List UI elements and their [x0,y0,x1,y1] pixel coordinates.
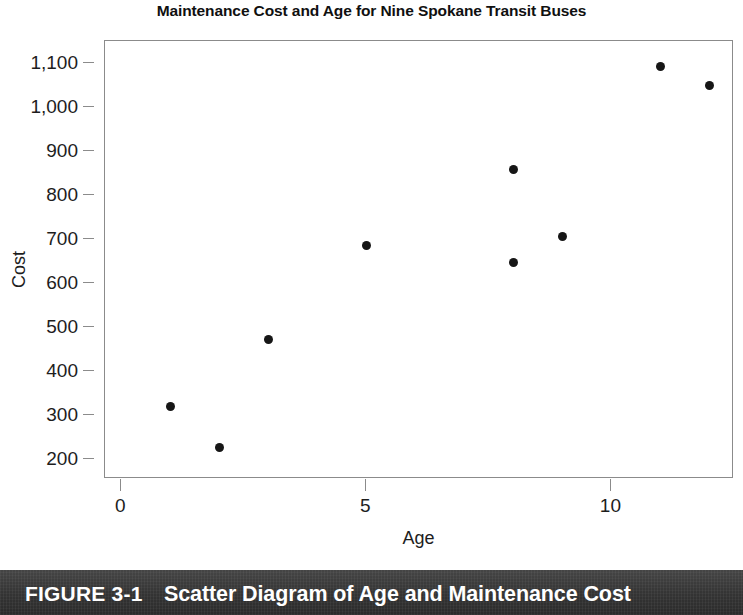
x-axis: 0510 [0,0,743,615]
figure-caption-text: Scatter Diagram of Age and Maintenance C… [164,582,631,607]
x-tick-mark [365,479,366,491]
x-tick-label: 10 [600,495,621,517]
figure-number: FIGURE 3-1 [25,582,143,606]
figure-caption-bar: FIGURE 3-1 Scatter Diagram of Age and Ma… [0,570,743,615]
x-tick-label: 5 [360,495,371,517]
x-tick-mark [610,479,611,491]
x-tick-mark [120,479,121,491]
x-tick-label: 0 [115,495,126,517]
x-axis-title: Age [104,528,733,549]
